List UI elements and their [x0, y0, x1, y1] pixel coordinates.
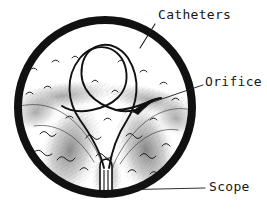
endoscopic-field — [4, 20, 205, 208]
callout-label-scope: Scope — [209, 180, 250, 193]
endoscopic-illustration: Catheters Orifice Scope — [0, 0, 267, 214]
callout-label-orifice: Orifice — [205, 75, 262, 88]
callout-label-catheters: Catheters — [158, 8, 231, 21]
